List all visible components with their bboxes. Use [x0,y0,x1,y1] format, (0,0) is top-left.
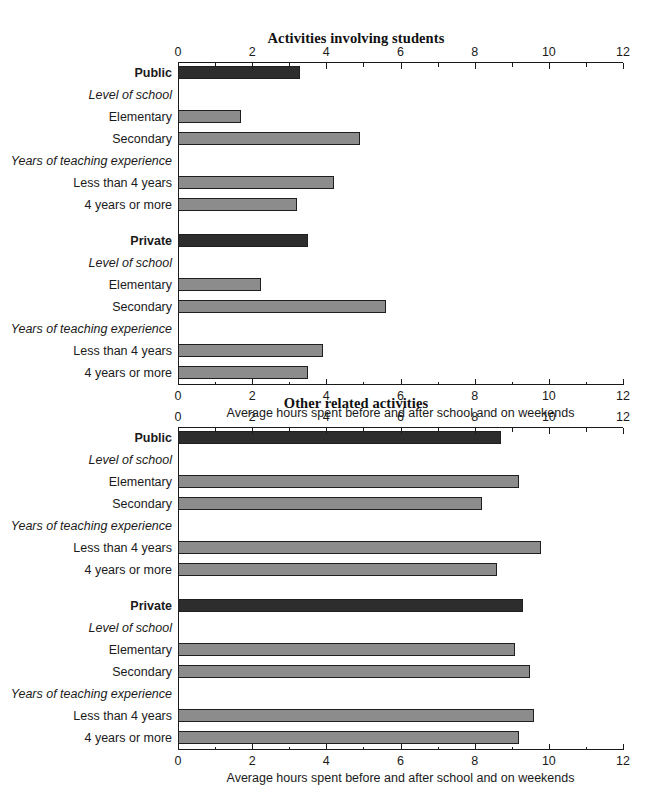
table-row: 4 years or more [178,559,623,581]
axis-tick [252,744,253,750]
bar [178,198,297,211]
axis-tick-minor [512,63,513,67]
table-row: Secondary [178,493,623,515]
table-row: Level of school [178,617,623,639]
bar [178,300,386,313]
row-label: Elementary [0,471,178,493]
axis-tick-label: 10 [542,754,556,768]
axis-tick [178,63,179,69]
bar [178,110,241,123]
bar [178,344,323,357]
row-spacer [178,216,623,230]
row-label: Elementary [0,274,178,296]
bar [178,475,519,488]
row-label: 4 years or more [0,727,178,749]
bar [178,731,519,744]
table-row: Elementary [178,274,623,296]
row-label: Level of school [0,617,178,639]
table-row: Level of school [178,252,623,274]
axis-tick [178,379,179,385]
row-label: Less than 4 years [0,537,178,559]
bar [178,176,334,189]
row-label: Less than 4 years [0,172,178,194]
bar [178,709,534,722]
row-label: Years of teaching experience [0,515,178,537]
table-row: Elementary [178,639,623,661]
axis-tick-minor [586,63,587,67]
table-row: Years of teaching experience [178,515,623,537]
x-axis-top: 024681012 [178,62,623,63]
axis-tick-minor [512,428,513,432]
table-row: Private [178,230,623,252]
bar-row-list: PublicLevel of schoolElementarySecondary… [178,62,623,384]
x-axis-top: 024681012 [178,427,623,428]
axis-tick-label: 2 [249,410,256,424]
bar [178,431,501,444]
axis-tick-label: 10 [542,45,556,59]
axis-tick-label: 10 [542,410,556,424]
axis-tick-minor [438,428,439,432]
axis-tick-minor [438,747,439,751]
row-label: 4 years or more [0,194,178,216]
axis-tick [475,744,476,750]
table-row: Level of school [178,84,623,106]
chart-title-text: Other related activities [284,395,428,411]
table-row: Years of teaching experience [178,318,623,340]
row-label: Elementary [0,106,178,128]
axis-tick [401,428,402,434]
axis-tick-label: 8 [471,754,478,768]
axis-tick-minor [363,63,364,67]
axis-tick [623,428,624,434]
chart-title-text: Activities involving students [268,30,445,46]
row-label: Level of school [0,252,178,274]
chart-title: Other related activities [0,395,668,412]
bar [178,643,515,656]
axis-tick-minor [438,63,439,67]
bar [178,541,541,554]
axis-tick-minor [363,428,364,432]
axis-tick-minor [512,382,513,386]
table-row: Less than 4 years [178,172,623,194]
axis-tick [475,428,476,434]
row-label: Public [0,427,178,449]
axis-tick-label: 0 [175,45,182,59]
axis-tick-label: 8 [471,410,478,424]
table-row: Less than 4 years [178,705,623,727]
axis-tick-label: 12 [616,410,630,424]
axis-tick [326,744,327,750]
axis-tick [549,428,550,434]
bar-row-list: PublicLevel of schoolElementarySecondary… [178,427,623,749]
x-axis-bottom: 024681012 [178,749,623,750]
x-axis-bottom: 024681012 [178,384,623,385]
table-row: Years of teaching experience [178,150,623,172]
bar [178,132,360,145]
axis-tick [475,63,476,69]
axis-tick-label: 12 [616,754,630,768]
axis-tick [401,63,402,69]
axis-tick [252,379,253,385]
table-row: 4 years or more [178,194,623,216]
row-spacer [178,581,623,595]
bar [178,563,497,576]
axis-tick-minor [586,428,587,432]
axis-tick [401,744,402,750]
bar [178,234,308,247]
row-label: 4 years or more [0,362,178,384]
axis-tick [549,744,550,750]
bar [178,66,300,79]
chart-title: Activities involving students [0,30,668,47]
table-row: Secondary [178,128,623,150]
axis-tick [549,379,550,385]
table-row: Elementary [178,471,623,493]
axis-tick [549,63,550,69]
axis-tick-minor [512,747,513,751]
bar [178,599,523,612]
axis-tick [475,379,476,385]
axis-tick-label: 2 [249,45,256,59]
axis-tick-minor [215,428,216,432]
axis-tick-minor [586,382,587,386]
row-label: Secondary [0,296,178,318]
row-label: Years of teaching experience [0,318,178,340]
axis-tick-minor [215,63,216,67]
axis-tick [401,379,402,385]
